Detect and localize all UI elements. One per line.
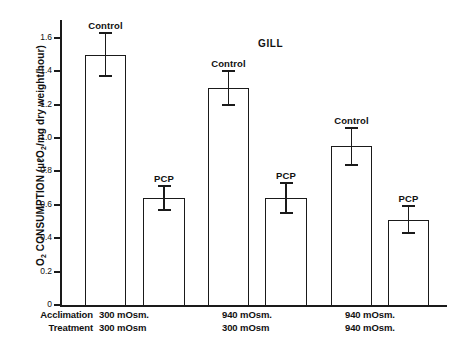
y-tick-label-text: 0.6 (40, 199, 52, 209)
error-bar-stem (228, 71, 230, 104)
error-bar-stem (105, 33, 107, 76)
error-bar-cap-lower (158, 209, 171, 211)
y-tick-mark (54, 37, 62, 39)
error-bar-stem (408, 206, 410, 233)
error-bar-stem (163, 186, 165, 209)
gill-o2-consumption-bar-chart: O2 CONSUMPTION (µℓO2/mg dry weight/hour)… (0, 0, 465, 348)
y-axis-title: O2 CONSUMPTION (µℓO2/mg dry weight/hour) (35, 21, 46, 291)
treatment-value-group-3: 940 mOsm. (345, 322, 395, 333)
y-tick-mark (54, 104, 62, 106)
y-tick-mark (54, 137, 62, 139)
y-tick-mark (54, 304, 62, 306)
error-bar-cap-upper (345, 127, 358, 129)
bar-control-group-3 (331, 146, 372, 305)
y-tick-mark (54, 237, 62, 239)
bar-pcp-group-1 (143, 198, 185, 305)
bar-control-group-1 (85, 55, 126, 306)
error-bar-stem (285, 183, 287, 213)
row-label-acclimation: Acclimation (5, 309, 93, 320)
bar-label-control-group-2: Control (189, 58, 269, 69)
error-bar-cap-lower (222, 104, 235, 106)
bar-control-group-2 (208, 88, 249, 305)
bar-label-control-group-1: Control (66, 20, 146, 31)
error-bar-cap-upper (280, 182, 293, 184)
y-tick-label-text: 1.4 (40, 65, 52, 75)
y-axis-line (60, 20, 62, 307)
error-bar-cap-upper (402, 205, 415, 207)
y-tick-label-text: 0.4 (40, 232, 52, 242)
y-tick-label-text: 1.2 (40, 99, 52, 109)
y-tick-mark (54, 204, 62, 206)
acclimation-value-group-2: 940 mOsm. (222, 309, 272, 320)
bar-pcp-group-2 (265, 198, 307, 305)
y-tick-mark (54, 70, 62, 72)
error-bar-cap-lower (99, 75, 112, 77)
error-bar-cap-lower (402, 232, 415, 234)
acclimation-value-group-3: 940 mOsm. (345, 309, 395, 320)
error-bar-cap-upper (158, 185, 171, 187)
y-tick-label-text: 0.2 (40, 266, 52, 276)
bar-label-pcp-group-2: PCP (246, 170, 326, 181)
y-tick-label-text: 1.6 (40, 32, 52, 42)
plot-title: GILL (258, 38, 283, 49)
treatment-value-group-2: 300 mOsm (222, 322, 269, 333)
y-tick-mark (54, 170, 62, 172)
acclimation-value-group-1: 300 mOsm. (99, 309, 149, 320)
error-bar-cap-lower (280, 212, 293, 214)
row-label-treatment: Treatment (5, 322, 93, 333)
bar-label-pcp-group-3: PCP (369, 193, 449, 204)
x-axis-line (60, 305, 447, 307)
y-tick-label-text: 0 (47, 299, 52, 309)
y-tick-label-text: 1.0 (40, 132, 52, 142)
error-bar-stem (351, 128, 353, 165)
bar-label-control-group-3: Control (312, 115, 392, 126)
treatment-value-group-1: 300 mOsm (99, 322, 146, 333)
y-tick-mark (54, 271, 62, 273)
bar-label-pcp-group-1: PCP (124, 173, 204, 184)
error-bar-cap-upper (99, 32, 112, 34)
error-bar-cap-upper (222, 70, 235, 72)
y-tick-label-text: 0.8 (40, 165, 52, 175)
error-bar-cap-lower (345, 164, 358, 166)
